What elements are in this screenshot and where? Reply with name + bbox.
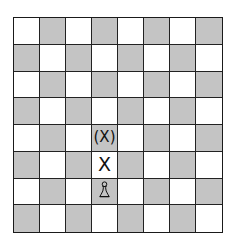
- square-e7[interactable]: [118, 45, 144, 72]
- square-d2[interactable]: [92, 179, 118, 206]
- square-g4[interactable]: [170, 125, 196, 152]
- square-d1[interactable]: [92, 205, 118, 232]
- square-b1[interactable]: [40, 205, 66, 232]
- square-a4[interactable]: [14, 125, 40, 152]
- square-h6[interactable]: [196, 72, 222, 99]
- square-c1[interactable]: [66, 205, 92, 232]
- square-b8[interactable]: [40, 18, 66, 45]
- square-a8[interactable]: [14, 18, 40, 45]
- square-f2[interactable]: [144, 179, 170, 206]
- square-a3[interactable]: [14, 152, 40, 179]
- square-c4[interactable]: [66, 125, 92, 152]
- square-a5[interactable]: [14, 98, 40, 125]
- chess-board: (X)X: [13, 17, 223, 233]
- square-e6[interactable]: [118, 72, 144, 99]
- square-d4[interactable]: (X): [92, 125, 118, 152]
- square-d3[interactable]: X: [92, 152, 118, 179]
- square-c6[interactable]: [66, 72, 92, 99]
- square-e8[interactable]: [118, 18, 144, 45]
- square-b5[interactable]: [40, 98, 66, 125]
- square-c7[interactable]: [66, 45, 92, 72]
- square-h1[interactable]: [196, 205, 222, 232]
- square-f7[interactable]: [144, 45, 170, 72]
- square-d8[interactable]: [92, 18, 118, 45]
- square-a7[interactable]: [14, 45, 40, 72]
- square-f6[interactable]: [144, 72, 170, 99]
- square-b7[interactable]: [40, 45, 66, 72]
- square-d5[interactable]: [92, 98, 118, 125]
- square-a2[interactable]: [14, 179, 40, 206]
- square-f4[interactable]: [144, 125, 170, 152]
- square-c5[interactable]: [66, 98, 92, 125]
- square-d6[interactable]: [92, 72, 118, 99]
- square-h4[interactable]: [196, 125, 222, 152]
- square-e1[interactable]: [118, 205, 144, 232]
- square-g7[interactable]: [170, 45, 196, 72]
- square-h2[interactable]: [196, 179, 222, 206]
- square-e5[interactable]: [118, 98, 144, 125]
- square-e4[interactable]: [118, 125, 144, 152]
- square-g1[interactable]: [170, 205, 196, 232]
- square-f3[interactable]: [144, 152, 170, 179]
- square-g8[interactable]: [170, 18, 196, 45]
- square-c2[interactable]: [66, 179, 92, 206]
- square-b3[interactable]: [40, 152, 66, 179]
- pawn-icon[interactable]: [98, 181, 111, 202]
- square-f1[interactable]: [144, 205, 170, 232]
- square-b2[interactable]: [40, 179, 66, 206]
- square-a6[interactable]: [14, 72, 40, 99]
- square-g2[interactable]: [170, 179, 196, 206]
- optional-move-marker: (X): [94, 130, 116, 145]
- square-f5[interactable]: [144, 98, 170, 125]
- square-c3[interactable]: [66, 152, 92, 179]
- square-g6[interactable]: [170, 72, 196, 99]
- square-g3[interactable]: [170, 152, 196, 179]
- square-g5[interactable]: [170, 98, 196, 125]
- square-f8[interactable]: [144, 18, 170, 45]
- square-b4[interactable]: [40, 125, 66, 152]
- square-d7[interactable]: [92, 45, 118, 72]
- square-h8[interactable]: [196, 18, 222, 45]
- square-a1[interactable]: [14, 205, 40, 232]
- move-marker: X: [98, 155, 111, 174]
- square-h7[interactable]: [196, 45, 222, 72]
- square-b6[interactable]: [40, 72, 66, 99]
- square-c8[interactable]: [66, 18, 92, 45]
- square-e2[interactable]: [118, 179, 144, 206]
- square-e3[interactable]: [118, 152, 144, 179]
- square-h3[interactable]: [196, 152, 222, 179]
- square-h5[interactable]: [196, 98, 222, 125]
